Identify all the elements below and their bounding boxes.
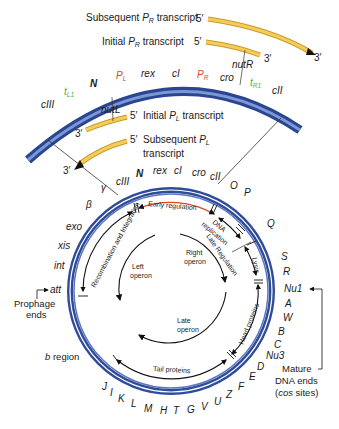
gene-D: D bbox=[257, 361, 264, 372]
gene-rex: rex bbox=[153, 165, 168, 176]
site-att: att bbox=[50, 284, 62, 295]
region-boundary-ticks bbox=[78, 203, 263, 363]
subsequent-pl-transcript bbox=[74, 141, 127, 170]
site-nutR: nutR bbox=[232, 59, 253, 70]
gene-R: R bbox=[283, 266, 290, 277]
prophage-ends-label: Prophage bbox=[14, 298, 55, 309]
lambda-phage-genome-diagram: Subsequent PR transcript 5′ 3′ Initial P… bbox=[0, 0, 339, 429]
right-operon-label: Right bbox=[186, 249, 202, 257]
three-prime-label: 3′ bbox=[75, 128, 83, 139]
gene-H: H bbox=[160, 405, 168, 416]
subsequent-pl-label: Subsequent PL bbox=[143, 134, 210, 146]
gene-xis: xis bbox=[57, 240, 70, 251]
gene-cIII: cIII bbox=[116, 176, 130, 187]
region-tail-proteins: Tail proteins bbox=[153, 365, 191, 375]
terminator-tR1: tR1 bbox=[250, 77, 261, 89]
gene-F: F bbox=[238, 381, 245, 392]
gene-T: T bbox=[173, 405, 180, 416]
gene-P: P bbox=[244, 187, 251, 198]
gene-U: U bbox=[214, 396, 222, 407]
gene-Nu3: Nu3 bbox=[266, 350, 285, 361]
mature-dna-ends-bracket bbox=[310, 289, 322, 369]
site-nutL: nutL bbox=[101, 104, 120, 115]
mature-dna-ends-label-line2: DNA ends bbox=[275, 375, 318, 386]
five-prime-label: 5′ bbox=[130, 110, 138, 121]
gene-cIII-top: cIII bbox=[41, 99, 55, 110]
cos-sites-label: (cos sites) bbox=[275, 387, 318, 398]
subsequent-pl-label-line2: transcript bbox=[143, 148, 184, 159]
three-prime-label: 3′ bbox=[63, 165, 71, 176]
initial-pr-transcript bbox=[206, 42, 260, 55]
right-operon-label-line2: operon bbox=[184, 258, 206, 266]
left-operon-label: Left bbox=[132, 263, 144, 270]
gene-E: E bbox=[249, 371, 256, 382]
mature-dna-ends-label: Mature bbox=[282, 363, 312, 374]
prophage-ends-label-line2: ends bbox=[26, 309, 47, 320]
gene-N: N bbox=[136, 168, 144, 179]
gene-Q: Q bbox=[267, 218, 275, 229]
gene-cI-top: cI bbox=[172, 68, 180, 79]
terminator-tL1: tL1 bbox=[64, 86, 74, 98]
three-prime-label: 3′ bbox=[264, 53, 272, 64]
gene-exo: exo bbox=[66, 221, 83, 232]
gene-B: B bbox=[278, 326, 285, 337]
left-operon-label-line2: operon bbox=[130, 272, 152, 280]
gene-cI: cI bbox=[174, 165, 182, 176]
gene-I: I bbox=[110, 387, 113, 398]
gene-cII: cII bbox=[210, 171, 221, 182]
gene-beta: β bbox=[85, 199, 92, 210]
b-region-label: b region bbox=[45, 351, 79, 362]
genome-circle bbox=[70, 190, 272, 392]
gene-A: A bbox=[284, 298, 292, 309]
promoter-PR: PR bbox=[197, 69, 209, 81]
gene-cII-top: cII bbox=[272, 85, 283, 96]
five-prime-label: 5′ bbox=[194, 36, 202, 47]
late-operon-label: Late bbox=[177, 317, 191, 324]
region-lysis: Lysis bbox=[250, 257, 261, 274]
gene-gamma: γ bbox=[101, 182, 107, 193]
gene-Z: Z bbox=[225, 389, 233, 400]
initial-pr-label: Initial PR transcript bbox=[102, 36, 184, 48]
gene-rex-top: rex bbox=[141, 68, 156, 79]
gene-G: G bbox=[187, 404, 195, 415]
promoter-PL: PL bbox=[116, 70, 127, 82]
gene-S: S bbox=[281, 251, 288, 262]
gene-int: int bbox=[54, 260, 66, 271]
gene-V: V bbox=[201, 401, 209, 412]
subsequent-pr-transcript bbox=[208, 19, 316, 55]
region-early-regulation: Early regulation bbox=[148, 200, 197, 212]
three-prime-label: 3′ bbox=[314, 52, 322, 63]
gene-C: C bbox=[274, 339, 282, 350]
zoom-connector-right bbox=[218, 118, 281, 184]
late-regulation-pointer bbox=[232, 242, 251, 252]
gene-K: K bbox=[118, 393, 126, 404]
five-prime-label: 5′ bbox=[196, 13, 204, 24]
late-operon-label-line2: operon bbox=[177, 326, 199, 334]
gene-cro-top: cro bbox=[220, 72, 234, 83]
gene-O: O bbox=[230, 180, 238, 191]
gene-cro: cro bbox=[192, 167, 206, 178]
five-prime-label: 5′ bbox=[130, 134, 138, 145]
gene-N-top: N bbox=[90, 78, 98, 89]
subsequent-pr-label: Subsequent PR transcript bbox=[86, 12, 198, 24]
initial-pl-label: Initial PL transcript bbox=[143, 110, 224, 122]
gene-Nu1: Nu1 bbox=[284, 283, 302, 294]
gene-M: M bbox=[144, 403, 153, 414]
gene-J: J bbox=[101, 381, 108, 392]
gene-W: W bbox=[283, 312, 294, 323]
gene-L: L bbox=[131, 398, 137, 409]
